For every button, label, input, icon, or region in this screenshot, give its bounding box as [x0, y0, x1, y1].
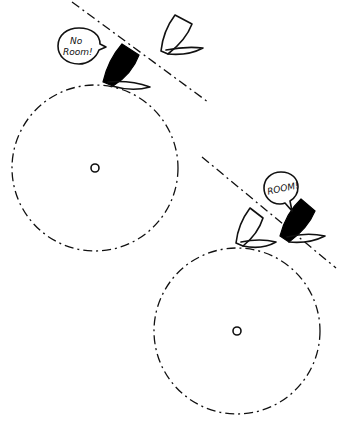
boundary-line	[202, 157, 336, 268]
bubble-text-line-1: ROOM!	[266, 180, 299, 196]
black-boat	[103, 44, 150, 89]
zone-circle	[12, 85, 178, 251]
white-boat	[236, 208, 276, 247]
scene-no-room: No Room!	[12, 2, 208, 251]
sailing-rules-diagram: No Room! ROOM!	[0, 0, 355, 423]
speech-bubble-no-room: No Room!	[58, 28, 106, 64]
white-boat	[161, 15, 203, 54]
scene-room: ROOM!	[154, 157, 336, 414]
mark-icon	[233, 327, 241, 335]
bubble-text-line-2: Room!	[63, 47, 93, 57]
boat-hull-black	[103, 44, 139, 86]
zone-circle	[154, 248, 320, 414]
speech-bubble-room: ROOM!	[264, 172, 299, 211]
bubble-text-line-1: No	[70, 36, 83, 46]
mark-icon	[91, 164, 99, 172]
